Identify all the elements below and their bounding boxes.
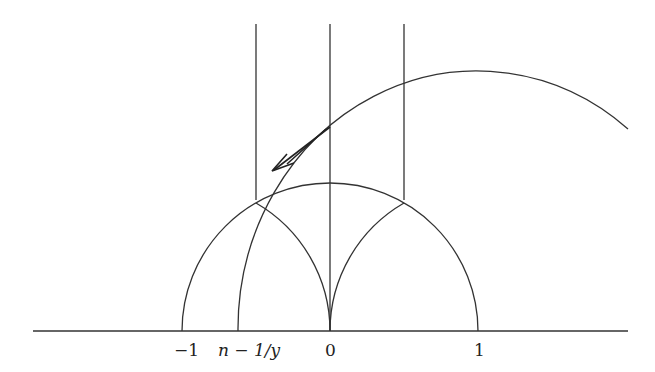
arrow-icon xyxy=(272,127,330,171)
left-tangent-arc xyxy=(256,203,330,331)
label-minus-one: −1 xyxy=(174,340,199,360)
label-one: 1 xyxy=(474,340,485,360)
label-n-minus-inverse-y: n − 1/y xyxy=(218,340,280,360)
large-geodesic-arc xyxy=(238,71,628,331)
right-tangent-arc xyxy=(330,203,404,331)
diagram-canvas xyxy=(0,0,655,372)
label-zero: 0 xyxy=(325,340,336,360)
